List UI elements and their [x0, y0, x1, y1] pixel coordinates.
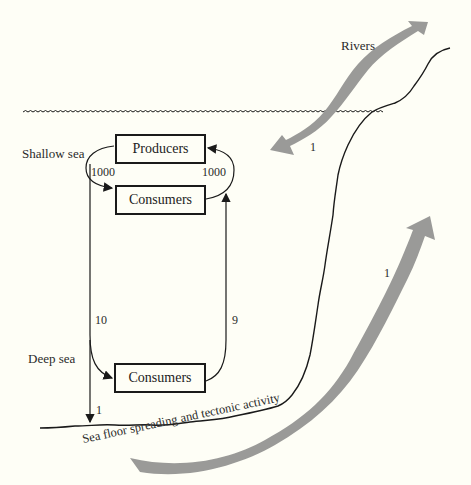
- shallow-consumers-box: Consumers: [115, 185, 206, 215]
- rivers-label: Rivers: [341, 38, 375, 54]
- coastline-profile: [40, 48, 450, 428]
- flow-value-shallow-to-deep: 10: [95, 313, 107, 328]
- flow-value-producers-consumers: 1000: [91, 165, 115, 180]
- flow-value-rivers: 1: [310, 140, 316, 155]
- producers-box: Producers: [115, 134, 206, 164]
- tectonic-return-arrow: [130, 216, 435, 474]
- deep-to-shallow-arrow: [206, 194, 226, 381]
- flow-value-deep-to-floor: 1: [96, 403, 102, 418]
- shallow-to-deep-line: [90, 164, 112, 378]
- flow-value-consumers-producers: 1000: [202, 165, 226, 180]
- deep-consumers-box: Consumers: [114, 363, 206, 393]
- deep-sea-label: Deep sea: [28, 351, 75, 367]
- flow-value-tectonic: 1: [384, 266, 390, 281]
- shallow-sea-label: Shallow sea: [22, 146, 84, 162]
- flow-value-deep-to-shallow: 9: [232, 313, 238, 328]
